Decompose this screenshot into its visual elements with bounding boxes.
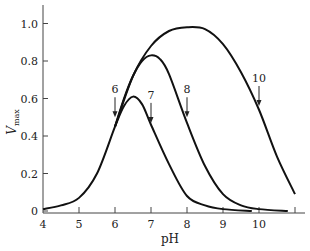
- y-tick-label: 0.4: [21, 130, 39, 143]
- y-tick-label: 0: [31, 205, 38, 218]
- x-tick-label: 5: [76, 218, 83, 231]
- x-tick-label: 7: [148, 218, 155, 231]
- annotation-label: 6: [112, 83, 119, 96]
- x-axis-label: pH: [161, 232, 179, 246]
- x-tick-label: 9: [220, 218, 227, 231]
- y-tick-label: 0.8: [21, 55, 39, 68]
- y-tick-label: 0.2: [21, 168, 39, 181]
- curve-pKa-6-10: [115, 27, 295, 194]
- x-tick-label: 6: [112, 218, 119, 231]
- annotation-label: 8: [184, 83, 191, 96]
- annotation-label: 7: [148, 89, 155, 102]
- arrowhead-icon: [113, 111, 118, 117]
- vmax-vs-ph-chart: 00.20.40.60.81.045678910pHVmax 67810: [0, 0, 310, 251]
- annotation-label: 10: [252, 72, 266, 85]
- x-tick-label: 10: [252, 218, 266, 231]
- curves: [43, 27, 295, 211]
- y-tick-label: 1.0: [21, 18, 39, 31]
- y-tick-label: 0.6: [21, 93, 39, 106]
- x-tick-label: 4: [40, 218, 47, 231]
- y-axis-label: Vmax: [5, 109, 21, 135]
- x-tick-label: 8: [184, 218, 191, 231]
- curve-pKa-6-7: [43, 97, 252, 211]
